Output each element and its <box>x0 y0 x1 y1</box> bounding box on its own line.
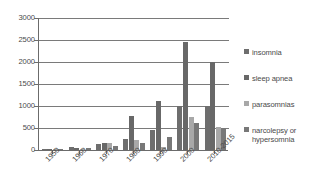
y-tick-label: 1000 <box>3 102 35 110</box>
legend-label: sleep apnea <box>252 74 292 83</box>
legend-swatch-icon <box>244 49 249 54</box>
legend-swatch-icon <box>244 75 249 80</box>
legend-label: narcolepsy orhypersomnia <box>252 126 296 144</box>
bar-chart: 050010001500200025003000 195019601970198… <box>0 0 316 192</box>
bar <box>123 139 128 150</box>
bar-group <box>96 18 118 150</box>
bar <box>140 143 145 150</box>
bar <box>129 116 134 150</box>
legend-item[interactable]: insomnia <box>244 48 282 57</box>
y-tick-label: 1500 <box>3 80 35 88</box>
bar <box>156 101 161 150</box>
bar <box>150 130 155 150</box>
y-tick-label: 0 <box>3 146 35 154</box>
legend-swatch-icon <box>244 101 249 106</box>
y-tick-label: 500 <box>3 124 35 132</box>
bar <box>210 62 215 150</box>
legend-item[interactable]: parasomnias <box>244 100 294 109</box>
bar <box>194 123 199 150</box>
bar <box>177 106 182 150</box>
plot-area <box>38 18 228 150</box>
bar-group <box>69 18 91 150</box>
bar <box>167 137 172 150</box>
bar-group <box>123 18 145 150</box>
legend-label: insomnia <box>252 48 282 57</box>
bar <box>205 106 210 150</box>
bar <box>183 42 188 150</box>
legend-item[interactable]: sleep apnea <box>244 74 292 83</box>
legend-item[interactable]: narcolepsy orhypersomnia <box>244 126 296 144</box>
bar-group <box>150 18 172 150</box>
bar-group <box>205 18 227 150</box>
y-tick-label: 3000 <box>3 14 35 22</box>
y-tick-label: 2500 <box>3 36 35 44</box>
y-axis: 050010001500200025003000 <box>0 0 35 192</box>
y-tick-label: 2000 <box>3 58 35 66</box>
legend-swatch-icon <box>244 127 249 132</box>
legend-label: parasomnias <box>252 100 294 109</box>
bar-group <box>177 18 199 150</box>
bar-group <box>42 18 64 150</box>
